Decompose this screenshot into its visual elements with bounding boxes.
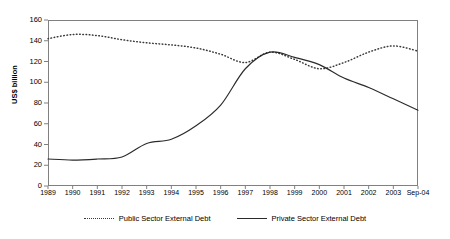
chart-legend: Public Sector External Debt Private Sect…	[0, 211, 450, 225]
series-line-public	[48, 34, 418, 68]
axis-tick-marks	[44, 20, 418, 189]
chart-canvas	[0, 0, 450, 239]
legend-item-public: Public Sector External Debt	[84, 214, 211, 223]
legend-item-private: Private Sector External Debt	[237, 214, 367, 223]
legend-label-private: Private Sector External Debt	[272, 214, 367, 223]
line-chart: US$ billion 160140120100806040200 198919…	[0, 0, 450, 239]
series-line-private	[48, 52, 418, 160]
dotted-line-swatch-icon	[84, 215, 114, 222]
legend-label-public: Public Sector External Debt	[119, 214, 211, 223]
series-lines	[48, 34, 418, 160]
solid-line-swatch-icon	[237, 215, 267, 222]
